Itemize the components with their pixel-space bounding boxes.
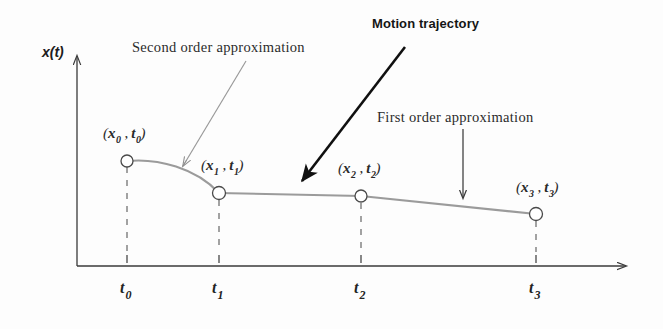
data-point-p1: [213, 187, 226, 200]
drop-lines-group: [127, 167, 536, 252]
motion-trajectory-label: Motion trajectory: [372, 17, 479, 30]
point-p3-comma: ,: [534, 179, 545, 195]
x-tick-label-t3-sub: 3: [534, 288, 540, 302]
point-label-p2: (x2,t2): [338, 161, 380, 176]
x-tick-label-t1: t1: [212, 280, 222, 296]
x-tick-label-t3-base: t: [529, 279, 533, 296]
motion-trajectory-figure: x(t) Second order approximation Motion t…: [0, 0, 663, 329]
point-p1-var: x: [206, 157, 214, 173]
point-label-p0: (x0,t0): [103, 126, 145, 141]
point-p1-comma: ,: [219, 157, 230, 173]
second-order-approximation-label: Second order approximation: [132, 40, 305, 55]
curve-segment-first-order-a: [219, 193, 361, 196]
point-p1-close-paren: ): [238, 157, 243, 173]
point-p1-t-sub: 1: [234, 166, 239, 177]
point-p2-var-sub: 2: [351, 169, 356, 180]
x-tick-label-t0-base: t: [120, 279, 124, 296]
point-p3-var: x: [521, 179, 529, 195]
point-p0-var: x: [108, 125, 116, 141]
figure-canvas: [0, 0, 663, 329]
x-tick-label-t2-sub: 2: [359, 288, 365, 302]
x-tick-label-t1-base: t: [212, 279, 216, 296]
x-tick-label-t2-base: t: [354, 279, 358, 296]
x-tick-label-t0-sub: 0: [125, 288, 131, 302]
x-tick-label-t2: t2: [354, 280, 364, 296]
point-p0-close-paren: ): [140, 125, 145, 141]
point-p2-close-paren: ): [375, 160, 380, 176]
point-p3-t-sub: 3: [549, 188, 554, 199]
point-p0-t: t: [131, 125, 135, 141]
point-p0-comma: ,: [121, 125, 132, 141]
point-label-p3: (x3,t3): [516, 180, 558, 195]
point-p1-t: t: [229, 157, 233, 173]
point-p0-t-sub: 0: [136, 134, 141, 145]
point-p2-t: t: [366, 160, 370, 176]
first-order-approximation-label: First order approximation: [377, 110, 534, 125]
point-p3-var-sub: 3: [529, 188, 534, 199]
x-tick-label-t1-sub: 1: [217, 288, 223, 302]
x-tick-label-t0: t0: [120, 280, 130, 296]
point-p3-t: t: [544, 179, 548, 195]
second-order-arrow: [183, 61, 246, 166]
point-p2-comma: ,: [356, 160, 367, 176]
point-p2-t-sub: 2: [371, 169, 376, 180]
x-tick-label-t3: t3: [529, 280, 539, 296]
point-p1-var-sub: 1: [214, 166, 219, 177]
data-point-p3: [530, 208, 543, 221]
trajectory-curve-group: [127, 160, 536, 214]
point-label-p1: (x1,t1): [201, 158, 243, 173]
y-axis-label: x(t): [42, 45, 64, 59]
data-point-p0: [121, 155, 133, 167]
curve-segment-first-order-b: [361, 196, 536, 214]
point-p0-var-sub: 0: [116, 134, 121, 145]
point-p2-var: x: [343, 160, 351, 176]
data-point-p2: [355, 190, 367, 202]
point-p3-close-paren: ): [553, 179, 558, 195]
